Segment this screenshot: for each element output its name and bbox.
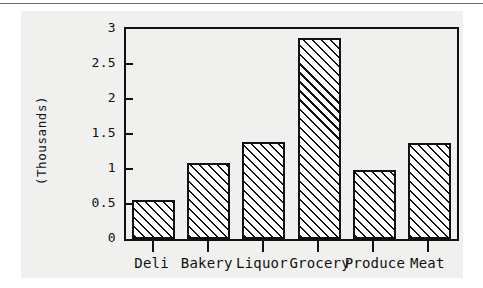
bar-meat[interactable] [408, 143, 451, 239]
x-axis-label-produce: Produce [345, 255, 400, 277]
y-axis-tick-label: 0.5 [92, 195, 116, 210]
x-axis-label-grocery: Grocery [289, 255, 344, 277]
bar-grocery[interactable] [298, 38, 341, 239]
x-axis-tick-mark [427, 241, 429, 252]
x-axis-tick-mark [262, 241, 264, 252]
bar-slot [181, 29, 236, 239]
x-axis-tick-mark [152, 241, 154, 252]
bar-slot [402, 29, 457, 239]
x-axis-labels: DeliBakeryLiquorGroceryProduceMeat [124, 255, 459, 277]
y-axis-tick-label: 1 [108, 160, 116, 175]
x-axis-tick-mark [372, 241, 374, 252]
x-axis-ticks [124, 241, 459, 253]
bar-slot [236, 29, 291, 239]
bar-slot [126, 29, 181, 239]
x-axis-tick-mark [207, 241, 209, 252]
y-axis-tick-label: 2 [108, 90, 116, 105]
x-axis-label-meat: Meat [400, 255, 455, 277]
bar-produce[interactable] [353, 170, 396, 239]
y-axis-tick-label: 2.5 [92, 55, 116, 70]
bar-slot [291, 29, 346, 239]
x-axis-tick-mark [317, 241, 319, 252]
bar-liquor[interactable] [242, 142, 285, 239]
screenshot-page: (Thousands) 00.511.522.53 DeliBakeryLiqu… [0, 0, 483, 288]
bar-deli[interactable] [132, 200, 175, 239]
bar-chart-figure: (Thousands) 00.511.522.53 DeliBakeryLiqu… [0, 0, 483, 288]
y-axis: 00.511.522.53 [0, 27, 124, 241]
y-axis-tick-label: 3 [108, 20, 116, 35]
y-axis-tick-label: 0 [108, 230, 116, 245]
x-axis-label-deli: Deli [124, 255, 179, 277]
bar-slot [347, 29, 402, 239]
x-axis-label-liquor: Liquor [234, 255, 289, 277]
x-axis-label-bakery: Bakery [179, 255, 234, 277]
bars-group [126, 29, 457, 239]
y-axis-tick-label: 1.5 [92, 125, 116, 140]
bar-bakery[interactable] [187, 163, 230, 239]
